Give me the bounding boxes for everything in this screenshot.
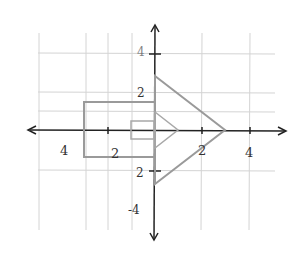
y-label-neg4: -4 bbox=[128, 203, 140, 217]
x-label-neg4: 4 bbox=[60, 143, 68, 158]
y-label-neg2: 2 bbox=[136, 166, 144, 180]
x-label-4: 4 bbox=[245, 145, 253, 160]
y-label-2: 2 bbox=[137, 86, 145, 100]
x-label-neg2: 2 bbox=[111, 146, 119, 161]
y-label-4: 4 bbox=[137, 45, 145, 59]
x-axis-labels: 4 2 2 4 bbox=[60, 143, 253, 161]
x-label-2: 2 bbox=[198, 143, 206, 158]
coordinate-plane: 4 2 2 4 4 2 2 -4 bbox=[0, 0, 303, 258]
axes bbox=[28, 25, 286, 240]
